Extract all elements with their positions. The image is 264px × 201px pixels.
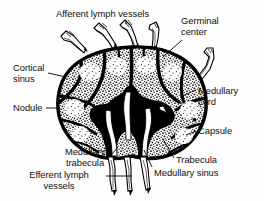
germinal-center-5 (64, 99, 84, 117)
label-medullary-cord: Medullary cord (198, 86, 238, 107)
germinal-center-4 (162, 63, 182, 81)
label-medullary-trabecula: Medullary trabecula (49, 147, 121, 168)
label-trabecula: Trabecula (176, 155, 217, 166)
germinal-center-7 (71, 126, 89, 142)
efferent-vessel-3 (140, 157, 150, 190)
label-medullary-cord-line1: Medullary (198, 86, 238, 97)
trabecula-3 (130, 46, 132, 92)
lymph-node-diagram: Afferent lymph vessels Germinal center C… (0, 0, 264, 201)
label-nodule: Nodule (13, 103, 42, 114)
afferent-vessel-4 (149, 22, 159, 48)
label-capsule: Capsule (198, 126, 232, 137)
label-germinal-center: Germinal center (181, 16, 219, 37)
germinal-center-8 (175, 128, 193, 144)
lymph-node-body (57, 46, 206, 159)
germinal-center-2 (107, 57, 127, 75)
germinal-center-1 (79, 63, 101, 81)
label-efferent-lymph-vessels-line1: Efferent lymph (14, 170, 104, 181)
label-cortical-sinus-line1: Cortical (13, 63, 44, 74)
label-medullary-trabecula-line2: trabecula (49, 158, 121, 169)
germinal-center-6 (180, 101, 200, 119)
label-germinal-center-line1: Germinal (181, 16, 219, 27)
afferent-vessel-2 (94, 23, 116, 49)
efferent-vessel-2 (124, 157, 132, 191)
germinal-center-3 (136, 56, 156, 74)
label-efferent-lymph-vessels-line2: vessels (14, 181, 104, 192)
label-cortical-sinus: Cortical sinus (13, 63, 44, 84)
label-medullary-trabecula-line1: Medullary (49, 147, 121, 158)
label-medullary-cord-line2: cord (198, 97, 238, 108)
label-afferent-lymph-vessels: Afferent lymph vessels (56, 9, 149, 20)
label-germinal-center-line2: center (181, 27, 219, 38)
label-efferent-lymph-vessels: Efferent lymph vessels (14, 170, 104, 191)
label-cortical-sinus-line2: sinus (13, 74, 44, 85)
label-medullary-sinus: Medullary sinus (154, 168, 218, 179)
leader-cortical-sinus (48, 73, 66, 77)
